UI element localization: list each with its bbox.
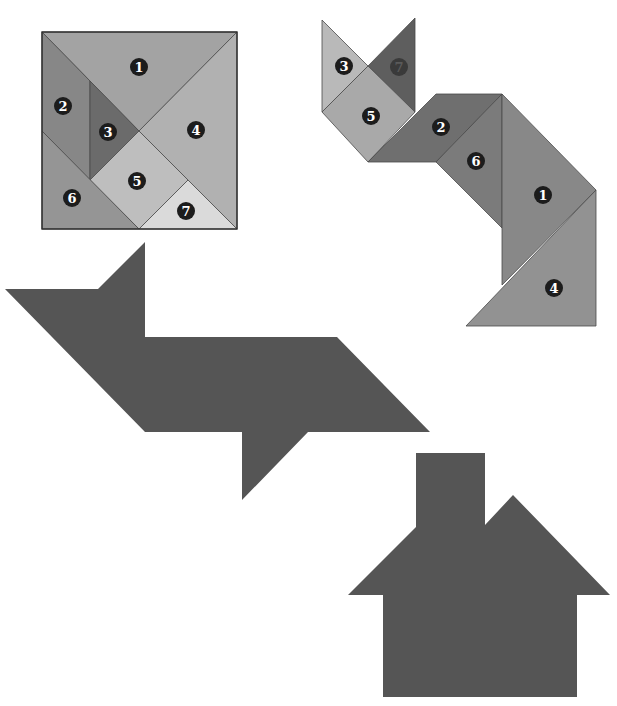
- square-piece-label-6: 6: [63, 189, 81, 207]
- tangram-canvas: 1234567 3752614: [0, 0, 617, 706]
- square-piece-label-5: 5: [128, 172, 146, 190]
- tangram-square: 1234567: [42, 32, 237, 229]
- piece-number: 3: [103, 125, 112, 140]
- piece-number: 5: [132, 174, 141, 189]
- piece-number: 6: [471, 154, 480, 169]
- piece-number: 7: [181, 204, 190, 219]
- cat-piece-label-5: 5: [362, 107, 380, 125]
- square-piece-label-4: 4: [187, 121, 205, 139]
- bird-silhouette: [5, 242, 430, 500]
- piece-number: 2: [436, 120, 445, 135]
- square-piece-label-7: 7: [177, 202, 195, 220]
- cat-piece-label-2: 2: [432, 118, 450, 136]
- piece-number: 1: [134, 60, 143, 75]
- square-piece-label-1: 1: [130, 58, 148, 76]
- cat-piece-label-4: 4: [545, 279, 563, 297]
- square-piece-label-3: 3: [99, 123, 117, 141]
- piece-number: 1: [538, 188, 547, 203]
- cat-piece-label-3: 3: [335, 57, 353, 75]
- piece-number: 3: [339, 59, 348, 74]
- piece-number: 4: [549, 281, 558, 296]
- cat-piece-label-1: 1: [534, 186, 552, 204]
- piece-number: 4: [191, 123, 200, 138]
- piece-number: 7: [394, 60, 403, 75]
- tangram-cat: 3752614: [322, 18, 596, 326]
- piece-number: 6: [67, 191, 76, 206]
- cat-piece-label-6: 6: [467, 152, 485, 170]
- piece-number: 2: [58, 99, 67, 114]
- square-piece-label-2: 2: [54, 97, 72, 115]
- cat-piece-label-7: 7: [390, 58, 408, 76]
- piece-number: 5: [366, 109, 375, 124]
- house-silhouette: [348, 453, 610, 697]
